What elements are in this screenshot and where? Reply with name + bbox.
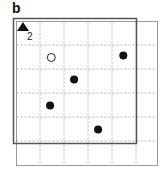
filled-point [70,76,78,84]
points-layer [46,52,127,134]
filled-point [46,102,54,110]
open-point [47,54,55,62]
grid-diagram: 2 [0,0,164,172]
marker-label: 2 [27,31,33,42]
filled-point [94,126,102,134]
triangle-up-icon [17,22,29,31]
filled-point [119,52,127,60]
